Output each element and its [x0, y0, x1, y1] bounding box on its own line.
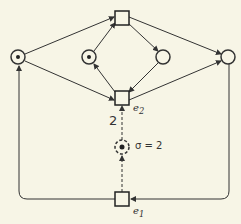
label-e1: e1	[133, 206, 144, 218]
arc-e2-p2	[94, 64, 115, 92]
petri-net-diagram	[0, 0, 241, 224]
arc-e1-p1	[19, 66, 115, 199]
label-e2: e2	[133, 103, 144, 115]
token-p2	[87, 55, 91, 59]
token-p1	[16, 55, 20, 59]
transition-e2	[115, 91, 129, 105]
arc-p3-e2	[129, 63, 158, 92]
arc-p4-e1	[131, 64, 229, 199]
place-p3	[156, 50, 170, 64]
label-arc-weight: 2	[109, 114, 117, 127]
arc-p1-e2	[25, 61, 114, 100]
place-p4	[221, 50, 235, 64]
arc-ttop-p4	[129, 17, 221, 54]
label-sigma: σ = 2	[135, 141, 162, 151]
arc-p2-ttop	[94, 23, 115, 51]
arc-p1-ttop	[25, 17, 114, 54]
arc-e2-p4	[129, 61, 221, 100]
transition-top	[115, 11, 129, 25]
transition-e1	[115, 192, 129, 206]
token-p5	[120, 145, 125, 150]
